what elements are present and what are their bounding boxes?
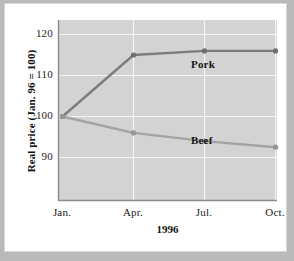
x-tick-label-oct: Oct. — [253, 206, 294, 218]
x-tick-label-jul: Jul. — [182, 206, 226, 218]
plot-area-background — [58, 20, 277, 200]
x-tick-label-jan: Jan. — [40, 206, 84, 218]
figure-frame: 120 110 100 90 Jan. Apr. Jul. Oct. Real … — [5, 4, 286, 251]
series-label-beef: Beef — [191, 134, 213, 146]
x-axis-title: 1996 — [58, 223, 277, 235]
series-label-pork: Pork — [191, 58, 215, 70]
y-axis-title: Real price (Jan. 96 = 100) — [25, 31, 37, 191]
x-tick-label-apr: Apr. — [111, 206, 155, 218]
